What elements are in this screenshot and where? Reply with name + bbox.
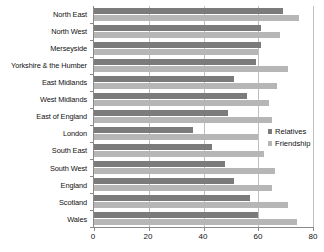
category-label: South West <box>0 160 91 177</box>
x-tickmark <box>313 227 314 231</box>
legend-item: Friendship <box>268 139 310 148</box>
category-label: London <box>0 126 91 143</box>
bar-group <box>94 6 313 23</box>
bar-friendship <box>94 15 299 21</box>
category-label: Merseyside <box>0 40 91 57</box>
bar-relatives <box>94 110 228 116</box>
category-label: Wales <box>0 211 91 228</box>
bar-relatives <box>94 127 193 133</box>
bar-group <box>94 40 313 57</box>
x-axis-tick-label: 60 <box>254 232 263 241</box>
bar-group <box>94 74 313 91</box>
bar-group <box>94 23 313 40</box>
bar-friendship <box>94 202 288 208</box>
bar-friendship <box>94 151 264 157</box>
chart-legend: RelativesFriendship <box>268 127 310 148</box>
x-axis-tick-label: 40 <box>199 232 208 241</box>
bar-group <box>94 176 313 193</box>
bar-group <box>94 91 313 108</box>
bar-friendship <box>94 32 280 38</box>
legend-item: Relatives <box>268 127 310 136</box>
x-tickmark <box>94 227 95 231</box>
bar-friendship <box>94 134 258 140</box>
x-axis-tick-label: 0 <box>91 232 95 241</box>
category-label: England <box>0 177 91 194</box>
bar-friendship <box>94 219 297 225</box>
gridline <box>313 6 314 227</box>
x-axis-tick-label: 80 <box>309 232 318 241</box>
bar-relatives <box>94 25 261 31</box>
bar-friendship <box>94 168 275 174</box>
bar-group <box>94 193 313 210</box>
bar-friendship <box>94 100 269 106</box>
value-axis-labels: 020406080 <box>93 232 313 248</box>
legend-swatch-icon <box>268 141 272 146</box>
x-tickmark <box>204 227 205 231</box>
bar-relatives <box>94 178 234 184</box>
bar-friendship <box>94 49 258 55</box>
bar-relatives <box>94 8 283 14</box>
bar-friendship <box>94 66 288 72</box>
bar-relatives <box>94 195 250 201</box>
bar-groups <box>94 6 313 227</box>
bar-chart: North EastNorth WestMerseysideYorkshire … <box>0 0 324 252</box>
legend-swatch-icon <box>268 129 272 134</box>
category-label: Yorkshire & the Humber <box>0 57 91 74</box>
bar-relatives <box>94 76 234 82</box>
bar-friendship <box>94 117 272 123</box>
bar-group <box>94 159 313 176</box>
bar-relatives <box>94 93 247 99</box>
category-label: Scotland <box>0 194 91 211</box>
category-label: North East <box>0 6 91 23</box>
category-label: West Midlands <box>0 91 91 108</box>
bar-group <box>94 108 313 125</box>
bar-relatives <box>94 161 225 167</box>
bar-friendship <box>94 83 277 89</box>
legend-label: Relatives <box>275 127 306 136</box>
bar-group <box>94 57 313 74</box>
bar-relatives <box>94 42 261 48</box>
bar-relatives <box>94 212 258 218</box>
bar-group <box>94 210 313 227</box>
bar-friendship <box>94 185 272 191</box>
bar-relatives <box>94 144 212 150</box>
plot-area <box>93 6 313 228</box>
legend-label: Friendship <box>275 139 310 148</box>
category-label: East of England <box>0 108 91 125</box>
category-label: North West <box>0 23 91 40</box>
category-label: East Midlands <box>0 74 91 91</box>
x-axis-tick-label: 20 <box>144 232 153 241</box>
x-tickmark <box>258 227 259 231</box>
category-label: South East <box>0 143 91 160</box>
x-tickmark <box>149 227 150 231</box>
bar-relatives <box>94 59 256 65</box>
category-axis-labels: North EastNorth WestMerseysideYorkshire … <box>0 6 91 228</box>
